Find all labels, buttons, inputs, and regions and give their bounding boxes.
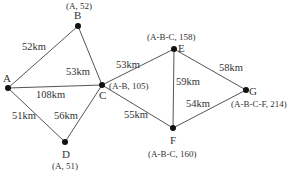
node-c-annotation: (A-B, 105) xyxy=(109,81,149,91)
edge-f-g-weight: 54km xyxy=(186,98,210,109)
node-f-annotation: (A-B-C, 160) xyxy=(148,149,197,159)
node-e xyxy=(171,46,177,52)
edge-a-c-weight: 108km xyxy=(36,89,65,100)
edge-a-b xyxy=(8,26,78,88)
node-c xyxy=(99,82,105,88)
node-d-label: D xyxy=(62,148,70,160)
node-b xyxy=(75,23,81,29)
edge-e-g-weight: 58km xyxy=(219,62,243,73)
node-d-annotation: (A, 51) xyxy=(52,161,78,171)
node-f xyxy=(170,125,176,131)
graph-diagram: A B C D E F G (A, 52) (A-B, 105) (A, 51)… xyxy=(0,0,289,173)
node-c-label: C xyxy=(99,89,106,101)
edge-a-d-weight: 51km xyxy=(12,110,36,121)
node-b-annotation: (A, 52) xyxy=(66,1,92,11)
node-d xyxy=(62,139,68,145)
node-e-label: E xyxy=(178,42,185,54)
edge-c-e-weight: 53km xyxy=(116,59,140,70)
edge-b-c-weight: 53km xyxy=(66,66,90,77)
edge-c-f xyxy=(102,85,173,128)
node-f-label: F xyxy=(170,134,176,146)
node-g-annotation: (A-B-C-F, 214) xyxy=(231,99,287,109)
node-a xyxy=(5,85,11,91)
edge-a-c xyxy=(8,85,102,88)
edge-f-g xyxy=(173,90,246,128)
edge-d-c-weight: 56km xyxy=(54,110,78,121)
edge-c-f-weight: 55km xyxy=(124,109,148,120)
edge-e-f-weight: 59km xyxy=(176,76,200,87)
edge-e-f xyxy=(173,49,174,128)
edge-a-b-weight: 52km xyxy=(22,41,46,52)
node-g-label: G xyxy=(249,85,257,97)
node-e-annotation: (A-B-C, 158) xyxy=(147,32,196,42)
node-a-label: A xyxy=(3,72,11,84)
